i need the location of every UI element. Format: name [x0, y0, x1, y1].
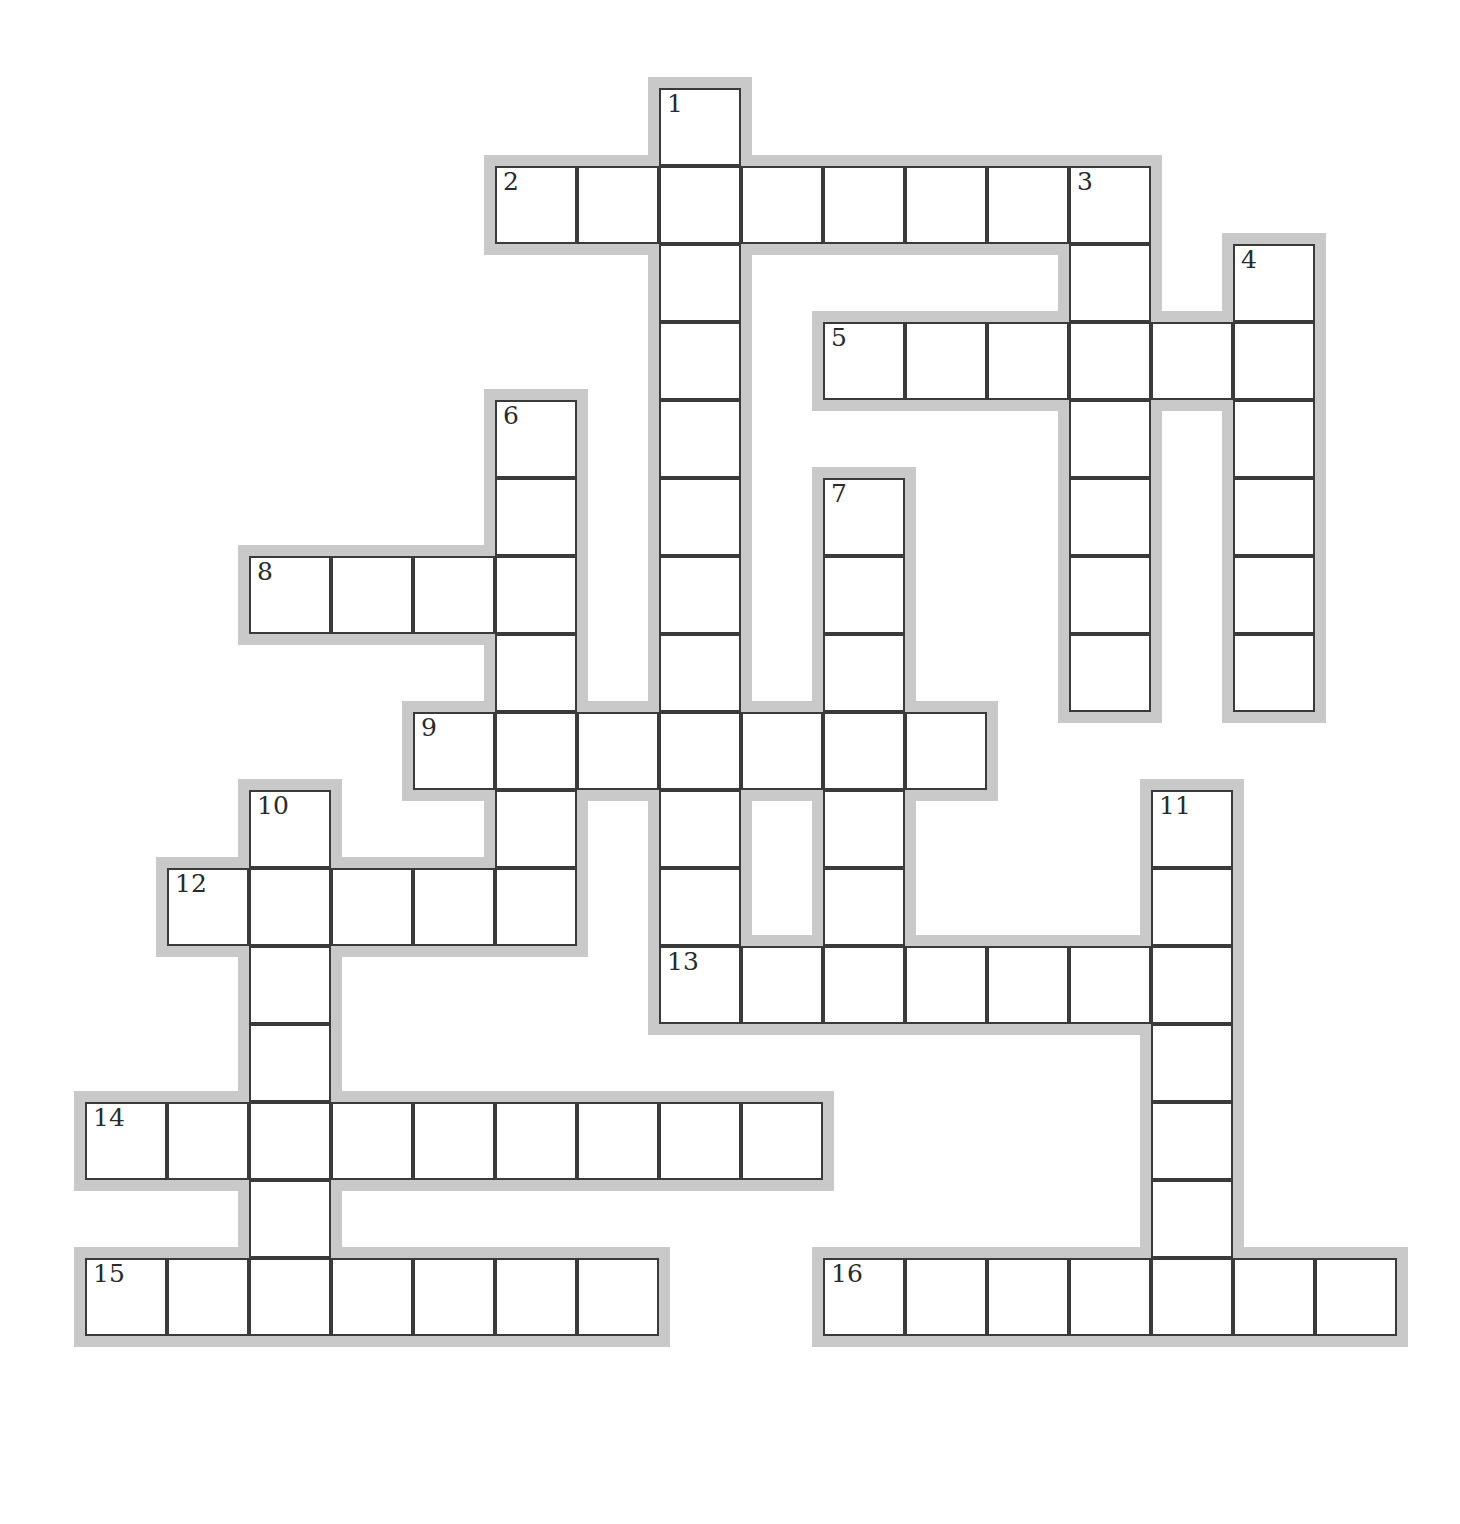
crossword-cell-15[interactable]: 15	[85, 1258, 167, 1336]
crossword-cell[interactable]	[823, 712, 905, 790]
crossword-cell[interactable]	[1151, 1024, 1233, 1102]
crossword-cell[interactable]	[249, 1102, 331, 1180]
crossword-cell[interactable]	[741, 1102, 823, 1180]
crossword-cell[interactable]	[1069, 946, 1151, 1024]
crossword-cell[interactable]	[823, 556, 905, 634]
crossword-cell[interactable]	[659, 322, 741, 400]
crossword-cell-5[interactable]: 5	[823, 322, 905, 400]
crossword-cell[interactable]	[1069, 400, 1151, 478]
crossword-cell[interactable]	[413, 868, 495, 946]
crossword-cell[interactable]	[905, 946, 987, 1024]
crossword-cell[interactable]	[1151, 322, 1233, 400]
crossword-cell[interactable]	[1151, 868, 1233, 946]
crossword-cell[interactable]	[1069, 634, 1151, 712]
crossword-cell-2[interactable]: 2	[495, 166, 577, 244]
crossword-cell[interactable]	[1151, 1180, 1233, 1258]
crossword-cell[interactable]	[413, 556, 495, 634]
crossword-cell-1[interactable]: 1	[659, 88, 741, 166]
crossword-cell[interactable]	[659, 1102, 741, 1180]
crossword-cell[interactable]	[249, 1180, 331, 1258]
cell-halo-edge	[1315, 467, 1326, 478]
crossword-cell-9[interactable]: 9	[413, 712, 495, 790]
crossword-cell[interactable]	[905, 322, 987, 400]
crossword-grid[interactable]: 12345678910111213141516	[0, 0, 1460, 1524]
crossword-cell[interactable]	[823, 790, 905, 868]
crossword-cell[interactable]	[1233, 322, 1315, 400]
crossword-cell[interactable]	[495, 1258, 577, 1336]
crossword-cell-7[interactable]: 7	[823, 478, 905, 556]
crossword-cell[interactable]	[1151, 1102, 1233, 1180]
crossword-cell[interactable]	[249, 946, 331, 1024]
crossword-cell[interactable]	[1151, 1258, 1233, 1336]
crossword-cell[interactable]	[659, 790, 741, 868]
crossword-cell-10[interactable]: 10	[249, 790, 331, 868]
crossword-cell[interactable]	[741, 712, 823, 790]
crossword-cell[interactable]	[1069, 244, 1151, 322]
crossword-cell[interactable]	[249, 1024, 331, 1102]
crossword-cell[interactable]	[823, 166, 905, 244]
crossword-cell[interactable]	[905, 166, 987, 244]
crossword-cell[interactable]	[331, 1258, 413, 1336]
crossword-cell[interactable]	[249, 868, 331, 946]
crossword-cell-8[interactable]: 8	[249, 556, 331, 634]
crossword-cell[interactable]	[249, 1258, 331, 1336]
crossword-cell[interactable]	[659, 868, 741, 946]
crossword-cell-12[interactable]: 12	[167, 868, 249, 946]
crossword-cell[interactable]	[577, 1102, 659, 1180]
crossword-cell[interactable]	[659, 556, 741, 634]
crossword-cell-13[interactable]: 13	[659, 946, 741, 1024]
crossword-cell[interactable]	[1315, 1258, 1397, 1336]
crossword-cell-3[interactable]: 3	[1069, 166, 1151, 244]
crossword-cell[interactable]	[987, 946, 1069, 1024]
crossword-cell[interactable]	[1069, 322, 1151, 400]
crossword-cell[interactable]	[987, 322, 1069, 400]
crossword-cell[interactable]	[659, 634, 741, 712]
crossword-cell[interactable]	[577, 166, 659, 244]
crossword-cell[interactable]	[577, 712, 659, 790]
crossword-cell-14[interactable]: 14	[85, 1102, 167, 1180]
crossword-cell[interactable]	[495, 478, 577, 556]
crossword-cell[interactable]	[823, 868, 905, 946]
crossword-cell[interactable]	[741, 166, 823, 244]
crossword-cell-6[interactable]: 6	[495, 400, 577, 478]
crossword-cell[interactable]	[1069, 1258, 1151, 1336]
crossword-cell[interactable]	[741, 946, 823, 1024]
crossword-cell[interactable]	[1151, 946, 1233, 1024]
crossword-cell-4[interactable]: 4	[1233, 244, 1315, 322]
crossword-cell[interactable]	[659, 166, 741, 244]
crossword-cell[interactable]	[987, 166, 1069, 244]
crossword-cell[interactable]	[413, 1102, 495, 1180]
crossword-cell[interactable]	[1233, 478, 1315, 556]
crossword-cell[interactable]	[987, 1258, 1069, 1336]
crossword-cell[interactable]	[823, 634, 905, 712]
crossword-cell[interactable]	[659, 244, 741, 322]
cell-halo-edge	[1304, 1247, 1315, 1258]
crossword-cell[interactable]	[331, 1102, 413, 1180]
crossword-cell[interactable]	[1069, 556, 1151, 634]
crossword-cell[interactable]	[659, 478, 741, 556]
crossword-cell[interactable]	[495, 556, 577, 634]
crossword-cell[interactable]	[331, 556, 413, 634]
crossword-cell[interactable]	[905, 712, 987, 790]
crossword-cell[interactable]	[331, 868, 413, 946]
crossword-cell[interactable]	[1233, 634, 1315, 712]
crossword-cell[interactable]	[659, 712, 741, 790]
crossword-cell[interactable]	[1069, 478, 1151, 556]
crossword-cell[interactable]	[577, 1258, 659, 1336]
crossword-cell[interactable]	[167, 1258, 249, 1336]
crossword-cell[interactable]	[495, 712, 577, 790]
crossword-cell-16[interactable]: 16	[823, 1258, 905, 1336]
crossword-cell[interactable]	[1233, 556, 1315, 634]
crossword-cell[interactable]	[905, 1258, 987, 1336]
crossword-cell[interactable]	[1233, 1258, 1315, 1336]
crossword-cell[interactable]	[1233, 400, 1315, 478]
crossword-cell[interactable]	[413, 1258, 495, 1336]
crossword-cell[interactable]	[495, 1102, 577, 1180]
crossword-cell-11[interactable]: 11	[1151, 790, 1233, 868]
crossword-cell[interactable]	[495, 790, 577, 868]
crossword-cell[interactable]	[659, 400, 741, 478]
crossword-cell[interactable]	[495, 634, 577, 712]
crossword-cell[interactable]	[495, 868, 577, 946]
crossword-cell[interactable]	[823, 946, 905, 1024]
crossword-cell[interactable]	[167, 1102, 249, 1180]
